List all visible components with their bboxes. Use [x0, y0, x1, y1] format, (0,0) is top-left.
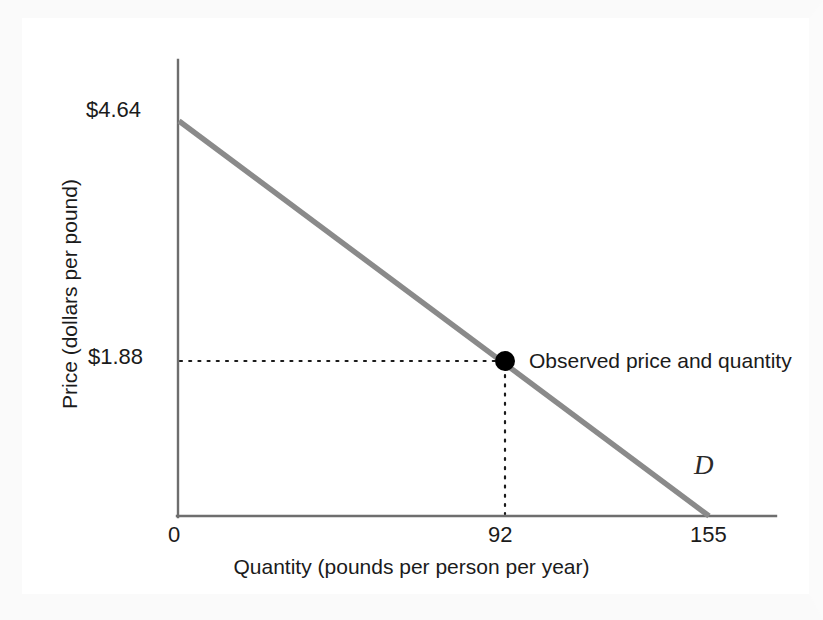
y-axis-tick-label-low: $1.88: [88, 344, 143, 370]
x-axis-tick-label-92: 92: [488, 522, 512, 548]
demand-curve-label: D: [694, 450, 714, 481]
demand-curve: [179, 121, 709, 516]
x-axis-tick-label-origin: 0: [168, 522, 180, 548]
y-axis-tick-label-high: $4.64: [86, 97, 141, 123]
observed-price-quantity-annotation: Observed price and quantity: [529, 349, 792, 373]
y-axis-title-container: Price (dollars per pound): [58, 84, 82, 504]
observed-point-marker: [495, 351, 515, 371]
x-axis-title: Quantity (pounds per person per year): [0, 555, 823, 579]
y-axis-title: Price (dollars per pound): [58, 179, 81, 409]
x-axis-tick-label-155: 155: [690, 522, 727, 548]
demand-curve-figure: $4.64 $1.88 0 92 155 Observed price and …: [0, 0, 823, 620]
